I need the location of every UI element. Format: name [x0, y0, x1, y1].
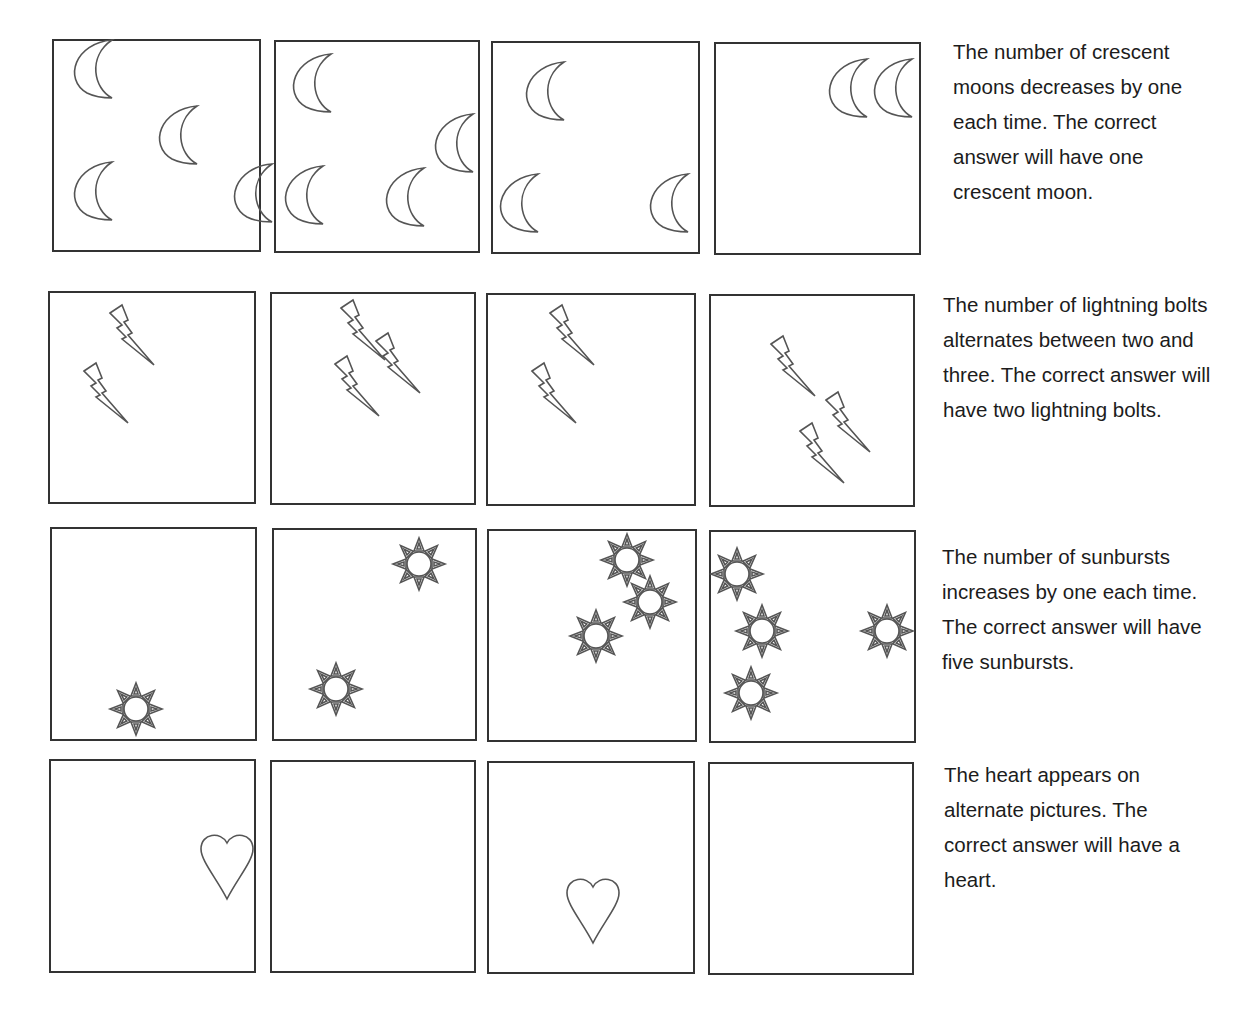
lightning-bolt-icon: [110, 305, 154, 365]
moon-panel-3: [491, 41, 700, 254]
lightning-bolt-group: [711, 296, 913, 505]
heart-group: [710, 764, 912, 973]
sunburst-icon: [393, 538, 445, 590]
sunburst-group: [711, 532, 914, 741]
crescent-moon-icon: [436, 114, 473, 172]
lightning-bolt-icon: [335, 356, 379, 416]
sunburst-icon: [110, 683, 162, 735]
crescent-moon-icon: [651, 174, 688, 232]
lightning-panel-1: [48, 291, 256, 504]
sunburst-group: [274, 530, 475, 739]
sunburst-explanation: The number of sunbursts increases by one…: [942, 539, 1217, 679]
heart-group: [489, 763, 693, 972]
sunburst-icon: [601, 534, 653, 586]
heart-group: [51, 761, 254, 971]
lightning-bolt-group: [50, 293, 254, 502]
heart-explanation: The heart appears on alternate pictures.…: [944, 757, 1214, 897]
moon-panel-4: [714, 42, 921, 255]
sunburst-icon: [624, 576, 676, 628]
lightning-bolt-icon: [550, 305, 594, 365]
sunburst-icon: [736, 605, 788, 657]
lightning-explanation: The number of lightning bolts alternates…: [943, 287, 1218, 427]
crescent-moon-icon: [527, 62, 564, 120]
lightning-bolt-icon: [826, 392, 870, 452]
sunburst-panel-3: [487, 529, 697, 742]
lightning-bolt-icon: [341, 300, 385, 360]
crescent-moon-icon: [294, 54, 331, 112]
cutoff-header-text: [0, 0, 700, 10]
lightning-bolt-icon: [84, 363, 128, 423]
lightning-bolt-group: [488, 295, 694, 504]
lightning-bolt-icon: [800, 423, 844, 483]
sunburst-group: [489, 531, 695, 740]
lightning-panel-2: [270, 292, 476, 505]
lightning-bolt-group: [272, 294, 474, 503]
sunburst-icon: [570, 610, 622, 662]
lightning-panel-4: [709, 294, 915, 507]
moon-panel-2: [274, 40, 480, 253]
crescent-moon-icon: [501, 174, 538, 232]
heart-panel-2: [270, 760, 476, 973]
sunburst-icon: [310, 663, 362, 715]
crescent-moon-icon: [830, 59, 867, 117]
sunburst-panel-1: [50, 527, 257, 741]
crescent-moon-icon: [875, 59, 912, 117]
moon-explanation: The number of crescent moons decreases b…: [953, 34, 1221, 209]
crescent-moon-group: [493, 43, 698, 252]
crescent-moon-icon: [235, 164, 272, 222]
crescent-moon-icon: [160, 106, 197, 164]
moon-panel-1: [52, 39, 261, 252]
lightning-bolt-icon: [532, 363, 576, 423]
crescent-moon-group: [54, 41, 259, 250]
heart-icon: [201, 835, 253, 899]
crescent-moon-icon: [286, 166, 323, 224]
sunburst-icon: [725, 667, 777, 719]
crescent-moon-icon: [75, 162, 112, 220]
heart-icon: [567, 879, 619, 943]
crescent-moon-icon: [387, 168, 424, 226]
sunburst-group: [52, 529, 255, 739]
lightning-panel-3: [486, 293, 696, 506]
heart-panel-3: [487, 761, 695, 974]
lightning-bolt-icon: [771, 336, 815, 396]
lightning-bolt-icon: [376, 333, 420, 393]
sunburst-icon: [861, 605, 913, 657]
crescent-moon-icon: [75, 40, 112, 98]
heart-panel-4: [708, 762, 914, 975]
sunburst-panel-2: [272, 528, 477, 741]
crescent-moon-group: [276, 42, 478, 251]
crescent-moon-group: [716, 44, 919, 253]
heart-group: [272, 762, 474, 971]
sunburst-panel-4: [709, 530, 916, 743]
sunburst-icon: [711, 548, 763, 600]
heart-panel-1: [49, 759, 256, 973]
